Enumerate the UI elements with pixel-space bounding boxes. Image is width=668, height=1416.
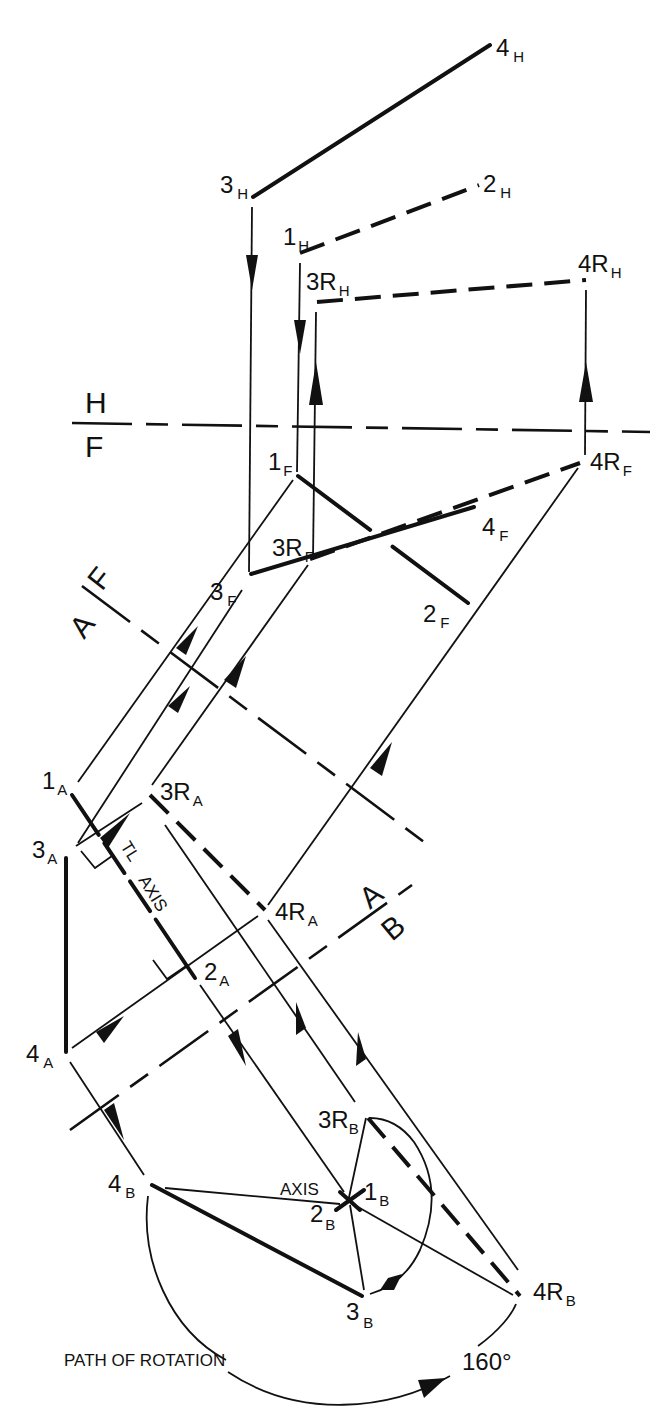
axis-label-b: AXIS xyxy=(280,1180,319,1199)
edge-3h-4h xyxy=(253,45,490,197)
edge-3ra-4ra-hidden xyxy=(150,795,265,910)
svg-text:1B: 1B xyxy=(364,1178,389,1209)
svg-text:4A: 4A xyxy=(26,1040,53,1071)
svg-text:2F: 2F xyxy=(423,600,450,631)
edge-3rb-4rb-hidden xyxy=(368,1118,520,1296)
plane-label-f: F xyxy=(85,430,103,463)
projectors-h-f xyxy=(246,207,593,572)
plane-label-b: B xyxy=(375,908,412,946)
svg-text:4H: 4H xyxy=(496,34,524,65)
svg-text:4F: 4F xyxy=(482,513,509,544)
svg-text:2H: 2H xyxy=(483,170,511,201)
svg-text:3A: 3A xyxy=(32,836,57,867)
descriptive-geometry-diagram: H F F A T xyxy=(0,0,668,1416)
horizontal-view xyxy=(253,45,586,302)
plane-label-h: H xyxy=(85,386,107,419)
svg-text:3B: 3B xyxy=(346,1298,373,1331)
svg-text:4RB: 4RB xyxy=(533,1278,576,1309)
svg-text:3H: 3H xyxy=(220,171,248,202)
edge-3rh-4rh-hidden xyxy=(317,280,586,302)
edge-1h-2h-hidden xyxy=(300,185,479,253)
angle-label: 160° xyxy=(462,1348,512,1375)
edge-1f-2f xyxy=(298,476,468,603)
svg-text:1H: 1H xyxy=(283,223,309,254)
svg-text:1F: 1F xyxy=(268,448,293,479)
point-labels: 4H 3H 2H 1H 3RH 4RH 1F 4RF 3RF 4F 3F 2F … xyxy=(26,34,632,1331)
fold-line-a-b: A B xyxy=(70,876,412,1130)
svg-text:3RA: 3RA xyxy=(160,778,203,809)
auxiliary-view: TL AXIS xyxy=(66,795,265,1052)
path-of-rotation-arc xyxy=(147,1196,226,1360)
svg-text:3RB: 3RB xyxy=(318,1106,359,1137)
plane-label-a2: A xyxy=(353,876,390,914)
svg-text:2B: 2B xyxy=(310,1200,335,1233)
edge-view-b: AXIS PATH OF ROTATION 160° xyxy=(64,1118,520,1405)
svg-text:3RH: 3RH xyxy=(306,268,350,299)
svg-text:4RF: 4RF xyxy=(590,448,632,479)
plane-label-a: A xyxy=(63,608,101,644)
svg-text:2A: 2A xyxy=(204,958,229,989)
svg-text:1A: 1A xyxy=(42,767,67,798)
svg-text:4RA: 4RA xyxy=(275,898,318,929)
svg-text:4RH: 4RH xyxy=(578,250,622,281)
tl-label: TL xyxy=(117,838,144,865)
svg-text:4B: 4B xyxy=(108,1170,135,1201)
fold-line-f-a: F A xyxy=(63,561,432,848)
front-view xyxy=(251,463,580,603)
svg-text:3RF: 3RF xyxy=(272,534,314,565)
fold-line-h-f: H F xyxy=(72,386,650,463)
svg-text:3F: 3F xyxy=(210,578,237,609)
path-of-rotation-label: PATH OF ROTATION xyxy=(64,1351,225,1370)
edge-4b-3b xyxy=(152,1185,362,1296)
